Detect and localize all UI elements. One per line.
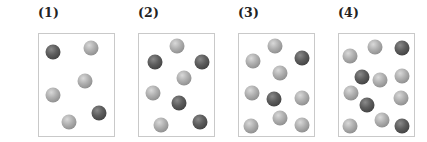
light-particle-icon [244,119,259,134]
light-particle-icon [295,91,310,106]
light-particle-icon [343,49,358,64]
dark-particle-icon [195,55,210,70]
light-particle-icon [273,111,288,126]
dark-particle-icon [395,119,410,134]
light-particle-icon [177,71,192,86]
panel-label: (3) [238,5,259,20]
light-particle-icon [78,74,93,89]
panel-4: (4) [330,0,427,142]
dark-particle-icon [46,45,61,60]
particle-box [138,33,215,137]
light-particle-icon [154,118,169,133]
particle-box [38,33,115,137]
light-particle-icon [62,115,77,130]
dark-particle-icon [360,98,375,113]
panel-label: (4) [338,5,359,20]
dark-particle-icon [295,51,310,66]
light-particle-icon [368,40,383,55]
light-particle-icon [146,86,161,101]
dark-particle-icon [355,70,370,85]
dark-particle-icon [395,41,410,56]
light-particle-icon [395,69,410,84]
light-particle-icon [373,73,388,88]
light-particle-icon [375,113,390,128]
dark-particle-icon [172,96,187,111]
dark-particle-icon [267,92,282,107]
light-particle-icon [46,88,61,103]
light-particle-icon [343,119,358,134]
panel-3: (3) [230,0,330,142]
dark-particle-icon [148,55,163,70]
panel-label: (2) [138,5,159,20]
particle-box [338,33,415,137]
light-particle-icon [344,86,359,101]
light-particle-icon [394,91,409,106]
dark-particle-icon [92,106,107,121]
light-particle-icon [268,39,283,54]
light-particle-icon [273,66,288,81]
particle-box [238,33,315,137]
light-particle-icon [245,86,260,101]
panel-1: (1) [30,0,130,142]
panel-2: (2) [130,0,230,142]
light-particle-icon [246,54,261,69]
light-particle-icon [295,118,310,133]
light-particle-icon [170,39,185,54]
panel-label: (1) [38,5,59,20]
light-particle-icon [84,41,99,56]
dark-particle-icon [193,115,208,130]
